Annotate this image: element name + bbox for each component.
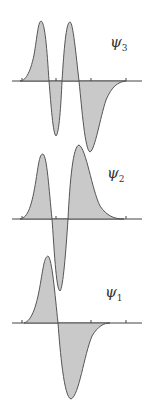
- label-psi2: ψ2: [107, 164, 125, 184]
- wavefunction-diagram: [0, 0, 151, 418]
- wavefunction-curve-psi1: [24, 256, 110, 399]
- subscript: 3: [122, 43, 128, 53]
- panel-psi1: [12, 256, 142, 399]
- psi-symbol: ψ: [105, 283, 117, 301]
- label-psi1: ψ1: [105, 283, 123, 303]
- label-psi3: ψ3: [110, 33, 128, 53]
- subscript: 2: [119, 174, 125, 184]
- psi-symbol: ψ: [107, 164, 119, 182]
- subscript: 1: [117, 293, 123, 303]
- psi-symbol: ψ: [110, 33, 122, 51]
